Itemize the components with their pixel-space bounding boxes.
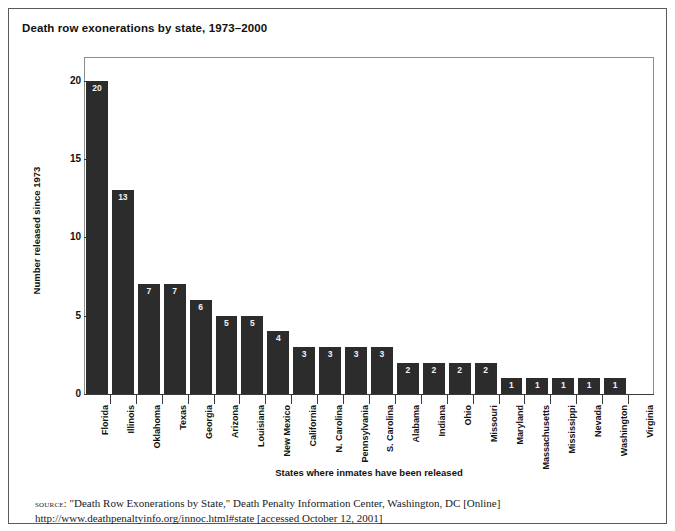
bar-value-label: 3 (345, 350, 367, 359)
bars-layer: 20137765543333222211111 (84, 57, 654, 394)
bar-value-label: 3 (319, 350, 341, 359)
x-axis-category-label: Nevada (593, 405, 603, 437)
bar-value-label: 13 (112, 193, 134, 202)
bar: 3 (291, 57, 317, 394)
bar-rect: 5 (216, 316, 238, 394)
bar: 7 (136, 57, 162, 394)
x-axis-title: States where inmates have been released (84, 467, 654, 478)
bar-value-label: 4 (267, 334, 289, 343)
source-text: "Death Row Exonerations by State," Death… (35, 497, 500, 524)
x-axis-tick-mark (499, 395, 500, 404)
x-axis-tick-mark (473, 395, 474, 404)
bar-value-label: 1 (501, 381, 523, 390)
bar-rect: 2 (449, 363, 471, 394)
bar: 2 (447, 57, 473, 394)
page-title: Death row exonerations by state, 1973–20… (22, 22, 267, 34)
x-axis-category-label: Washington (619, 405, 629, 456)
y-axis-tick-label: 5 (75, 310, 81, 321)
bar: 3 (317, 57, 343, 394)
x-axis-tick-mark (110, 395, 111, 404)
x-axis-tick-mark (265, 395, 266, 404)
bar-rect: 2 (423, 363, 445, 394)
bar: 3 (369, 57, 395, 394)
bar: 1 (576, 57, 602, 394)
x-axis-category-label: Indiana (437, 405, 447, 437)
x-axis-tick-mark (239, 395, 240, 404)
bar-value-label: 2 (475, 366, 497, 375)
figure-frame: Death row exonerations by state, 1973–20… (8, 8, 667, 524)
bar-rect: 3 (293, 347, 315, 394)
bar-value-label: 2 (423, 366, 445, 375)
x-axis-category-label: Alabama (411, 405, 421, 443)
bar: 6 (188, 57, 214, 394)
bar: 1 (602, 57, 628, 394)
bar-rect: 6 (190, 300, 212, 394)
bar-rect: 4 (267, 331, 289, 394)
bar-value-label: 7 (164, 287, 186, 296)
x-axis-tick-mark (162, 395, 163, 404)
x-axis-tick-mark (628, 395, 629, 404)
bar: 2 (421, 57, 447, 394)
x-axis-category-label: New Mexico (282, 405, 292, 457)
x-axis-category-label: Louisiana (256, 405, 266, 447)
bar-rect: 5 (241, 316, 263, 394)
bar-rect: 1 (604, 378, 626, 394)
bar: 7 (162, 57, 188, 394)
bar: 1 (550, 57, 576, 394)
bar-rect: 20 (86, 81, 108, 394)
bar-value-label: 1 (526, 381, 548, 390)
x-axis-tick-mark (214, 395, 215, 404)
source-note: source: "Death Row Exonerations by State… (35, 496, 655, 526)
x-axis-category-label: Pennsylvania (360, 405, 370, 463)
x-axis-category-label: N. Carolina (334, 405, 344, 453)
bar-value-label: 5 (241, 319, 263, 328)
bar-value-label: 20 (86, 84, 108, 93)
bar-rect: 3 (319, 347, 341, 394)
y-axis-tick-label: 0 (75, 388, 81, 399)
bar-rect: 7 (164, 284, 186, 394)
x-axis-tick-mark (395, 395, 396, 404)
x-axis-category-label: Arizona (230, 405, 240, 438)
x-axis-tick-mark (576, 395, 577, 404)
bar-value-label: 2 (397, 366, 419, 375)
x-axis-category-label: S. Carolina (385, 405, 395, 452)
bar: 4 (265, 57, 291, 394)
bar: 20 (84, 57, 110, 394)
x-axis-tick-mark (602, 395, 603, 404)
x-axis-category-label: Mississippi (567, 405, 577, 454)
x-axis-category-label: Virginia (645, 405, 655, 438)
bar-rect: 2 (475, 363, 497, 394)
x-axis-category-label: Massachusetts (541, 405, 551, 470)
x-axis-tick-mark (317, 395, 318, 404)
x-axis-tick-mark (369, 395, 370, 404)
bar-rect: 2 (397, 363, 419, 394)
y-axis-tick-label: 20 (70, 75, 81, 86)
y-axis-tick-label: 15 (70, 153, 81, 164)
x-axis-category-label: California (308, 405, 318, 447)
bar-value-label: 6 (190, 303, 212, 312)
x-axis-category-label: Ohio (463, 405, 473, 426)
source-label: source: (35, 498, 67, 509)
bar-value-label: 1 (604, 381, 626, 390)
bar: 2 (395, 57, 421, 394)
bar-rect: 3 (345, 347, 367, 394)
bar-value-label: 1 (552, 381, 574, 390)
bar-value-label: 3 (371, 350, 393, 359)
bar: 2 (473, 57, 499, 394)
bar-value-label: 3 (293, 350, 315, 359)
bar-rect: 1 (501, 378, 523, 394)
bar-rect: 1 (526, 378, 548, 394)
x-axis-category-labels: FloridaIllinoisOklahomaTexasGeorgiaArizo… (84, 405, 654, 467)
x-axis-tick-mark (136, 395, 137, 404)
x-axis-tick-mark (188, 395, 189, 404)
bar-value-label: 1 (578, 381, 600, 390)
x-axis-tick-mark (524, 395, 525, 404)
bar-rect: 1 (578, 378, 600, 394)
y-axis-title: Number released since 1973 (31, 141, 42, 321)
bar-value-label: 5 (216, 319, 238, 328)
bar: 5 (214, 57, 240, 394)
x-axis-category-label: Florida (100, 405, 110, 435)
x-axis-tick-mark (291, 395, 292, 404)
x-axis-tick-mark (421, 395, 422, 404)
x-axis-tick-mark (343, 395, 344, 404)
